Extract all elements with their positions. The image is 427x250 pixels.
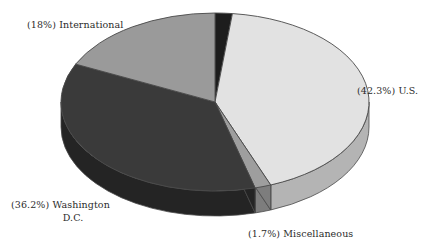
slice-label-miscellaneous: (1.7%) Miscellaneous — [248, 227, 353, 240]
slice-label-international: (18%) International — [27, 18, 123, 31]
slice-label-washington-dc-line1: (36.2%) Washington — [11, 199, 110, 210]
pie-chart-figure: (18%) International (42.3%) U.S. (36.2%)… — [0, 0, 427, 250]
slice-label-washington-dc: (36.2%) WashingtonD.C. — [11, 198, 131, 224]
pie-3d-group — [61, 13, 369, 216]
slice-label-washington-dc-line2: D.C. — [11, 211, 131, 224]
slice-label-us: (42.3%) U.S. — [357, 84, 418, 97]
